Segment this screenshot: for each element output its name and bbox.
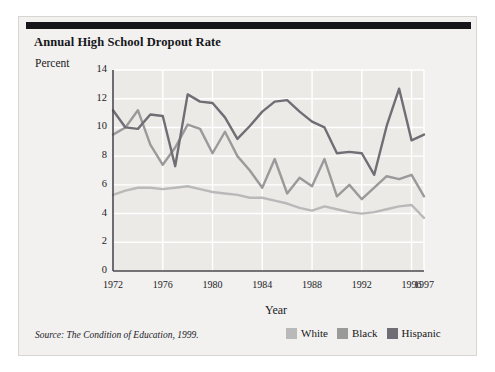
legend-label: Black bbox=[352, 327, 378, 339]
legend-item-black[interactable]: Black bbox=[337, 327, 378, 339]
y-tick-label: 2 bbox=[85, 235, 107, 246]
x-tick-label: 1984 bbox=[245, 279, 279, 290]
x-tick-label: 1976 bbox=[146, 279, 180, 290]
title-rule bbox=[26, 22, 471, 29]
legend-swatch-icon bbox=[387, 328, 398, 339]
y-tick-label: 10 bbox=[85, 120, 107, 131]
legend-swatch-icon bbox=[337, 328, 348, 339]
x-tick-label: 1997 bbox=[407, 279, 441, 290]
y-tick-label: 8 bbox=[85, 149, 107, 160]
legend-item-white[interactable]: White bbox=[286, 327, 328, 339]
legend-swatch-icon bbox=[286, 328, 297, 339]
legend-label: White bbox=[301, 327, 328, 339]
y-tick-label: 0 bbox=[85, 264, 107, 275]
y-tick-label: 6 bbox=[85, 178, 107, 189]
x-tick-label: 1972 bbox=[96, 279, 130, 290]
x-tick-label: 1988 bbox=[295, 279, 329, 290]
x-tick-label: 1980 bbox=[196, 279, 230, 290]
x-axis-label: Year bbox=[246, 303, 306, 318]
y-axis-caption: Percent bbox=[35, 57, 69, 69]
legend-label: Hispanic bbox=[402, 327, 441, 339]
y-tick-label: 14 bbox=[85, 63, 107, 74]
y-tick-label: 4 bbox=[85, 207, 107, 218]
legend-item-hispanic[interactable]: Hispanic bbox=[387, 327, 441, 339]
chart-legend: WhiteBlackHispanic bbox=[286, 327, 441, 339]
source-note: Source: The Condition of Education, 1999… bbox=[35, 330, 199, 340]
chart-title: Annual High School Dropout Rate bbox=[34, 35, 221, 50]
y-tick-label: 12 bbox=[85, 92, 107, 103]
x-tick-label: 1992 bbox=[345, 279, 379, 290]
